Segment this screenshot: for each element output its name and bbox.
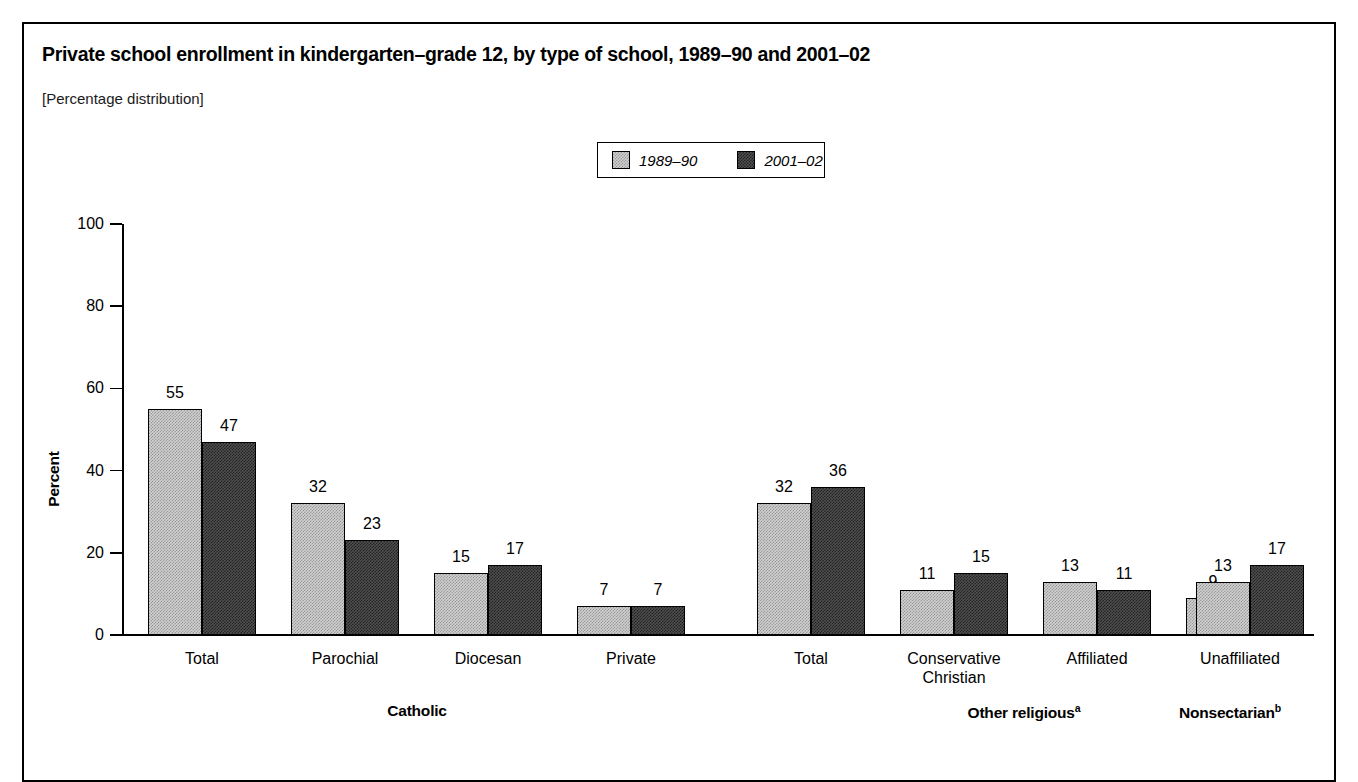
- y-tick-mark-80: [110, 305, 122, 307]
- y-tick-label-80: 80: [44, 298, 104, 314]
- bar-value-label-2001-02-6: 11: [1094, 566, 1154, 582]
- bar-value-label-2001-02-3: 7: [628, 582, 688, 598]
- bar-2001-02-0: [202, 442, 256, 635]
- y-tick-label-40: 40: [44, 463, 104, 479]
- bar-1989-90-8: [1196, 582, 1250, 635]
- bar-1989-90-4: [757, 503, 811, 635]
- bar-value-label-2001-02-0: 47: [199, 418, 259, 434]
- bar-2001-02-8: [1250, 565, 1304, 635]
- y-tick-mark-0: [110, 634, 122, 636]
- bar-2001-02-1: [345, 540, 399, 635]
- x-category-label-2: Diocesan: [413, 649, 563, 668]
- x-group-label-1: Other religiousa: [874, 702, 1174, 722]
- bar-value-label-1989-90-1: 32: [288, 479, 348, 495]
- bar-value-label-1989-90-0: 55: [145, 385, 205, 401]
- y-tick-mark-100: [110, 223, 122, 225]
- bar-value-label-1989-90-8: 13: [1193, 558, 1253, 574]
- y-tick-label-60: 60: [44, 380, 104, 396]
- y-tick-label-20: 20: [44, 545, 104, 561]
- bar-value-label-1989-90-3: 7: [574, 582, 634, 598]
- bar-1989-90-5: [900, 590, 954, 635]
- bar-2001-02-2: [488, 565, 542, 635]
- bar-value-label-1989-90-2: 15: [431, 549, 491, 565]
- y-tick-mark-60: [110, 388, 122, 390]
- x-category-label-7: Unaffiliated: [1165, 649, 1315, 668]
- bar-1989-90-2: [434, 573, 488, 635]
- x-category-label-0: Total: [127, 649, 277, 668]
- y-axis-title: Percent: [45, 419, 63, 539]
- bar-1989-90-1: [291, 503, 345, 635]
- bar-1989-90-6: [1043, 582, 1097, 635]
- y-axis-line: [122, 224, 124, 636]
- x-group-label-2: Nonsectarianb: [1130, 702, 1330, 722]
- bar-2001-02-3: [631, 606, 685, 635]
- x-category-label-1: Parochial: [270, 649, 420, 668]
- bar-2001-02-5: [954, 573, 1008, 635]
- bar-value-label-1989-90-5: 11: [897, 566, 957, 582]
- bar-1989-90-3: [577, 606, 631, 635]
- x-category-label-6: Affiliated: [1022, 649, 1172, 668]
- x-category-label-3: Private: [556, 649, 706, 668]
- bar-value-label-2001-02-1: 23: [342, 516, 402, 532]
- y-tick-mark-40: [110, 470, 122, 472]
- bar-2001-02-6: [1097, 590, 1151, 635]
- bar-value-label-2001-02-2: 17: [485, 541, 545, 557]
- y-tick-label-0: 0: [44, 627, 104, 643]
- bar-value-label-2001-02-4: 36: [808, 463, 868, 479]
- x-category-label-5: ConservativeChristian: [879, 649, 1029, 687]
- bar-value-label-1989-90-6: 13: [1040, 558, 1100, 574]
- y-tick-label-100: 100: [44, 216, 104, 232]
- bar-value-label-2001-02-8: 17: [1247, 541, 1307, 557]
- bar-value-label-1989-90-4: 32: [754, 479, 814, 495]
- x-group-label-0: Catholic: [267, 702, 567, 720]
- x-category-label-4: Total: [736, 649, 886, 668]
- bar-1989-90-0: [148, 409, 202, 635]
- bar-2001-02-4: [811, 487, 865, 635]
- bar-value-label-2001-02-5: 15: [951, 549, 1011, 565]
- y-tick-mark-20: [110, 552, 122, 554]
